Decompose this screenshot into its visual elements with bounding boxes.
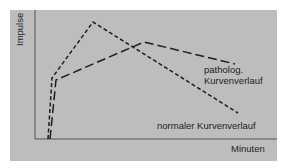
pathological-curve-label: patholog. Kurvenverlauf: [204, 64, 263, 86]
x-axis-label: Minuten: [231, 143, 265, 154]
y-axis-label: Impulse: [14, 13, 25, 46]
pathological-label-line2: Kurvenverlauf: [204, 75, 263, 86]
normal-curve-label: normaler Kurvenverlauf: [157, 120, 256, 131]
pathological-label-line1: patholog.: [204, 64, 263, 75]
